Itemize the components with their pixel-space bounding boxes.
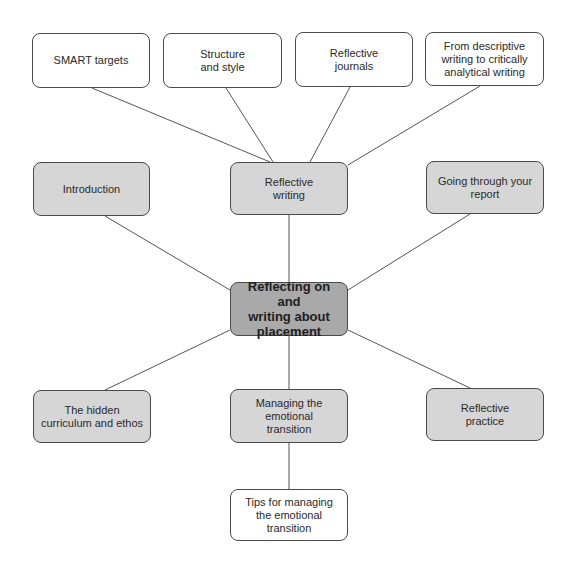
- link-structure-style: [226, 88, 273, 162]
- center-label: Reflecting on and writing about placemen…: [237, 279, 341, 339]
- node-going-through-report: Going through your report: [426, 161, 544, 214]
- node-label: SMART targets: [54, 54, 129, 67]
- link-smart-targets: [92, 88, 270, 162]
- node-label: Reflective journals: [330, 47, 378, 73]
- node-label: Going through your report: [438, 175, 532, 201]
- link-going-through-report: [348, 214, 470, 290]
- node-reflective-practice: Reflective practice: [426, 388, 544, 441]
- node-center: Reflecting on and writing about placemen…: [230, 282, 348, 336]
- node-tips-emotional-transition: Tips for managing the emotional transiti…: [230, 489, 348, 541]
- node-label: The hidden curriculum and ethos: [41, 404, 143, 430]
- node-label: Tips for managing the emotional transiti…: [245, 496, 333, 535]
- node-structure-style: Structure and style: [163, 33, 282, 88]
- node-label: Reflective practice: [461, 402, 509, 428]
- node-label: Reflective writing: [265, 176, 313, 202]
- node-descriptive-to-analytical: From descriptive writing to critically a…: [425, 32, 544, 86]
- node-reflective-writing: Reflective writing: [230, 162, 348, 215]
- link-hidden-curriculum: [105, 330, 230, 390]
- node-label: Structure and style: [200, 48, 245, 74]
- link-reflective-journals: [310, 87, 350, 162]
- node-label: From descriptive writing to critically a…: [441, 40, 527, 79]
- node-introduction: Introduction: [33, 162, 150, 216]
- mind-map-diagram: SMART targets Structure and style Reflec…: [0, 0, 577, 570]
- node-reflective-journals: Reflective journals: [295, 32, 413, 87]
- link-descriptive-analytical: [348, 86, 480, 165]
- node-hidden-curriculum: The hidden curriculum and ethos: [33, 390, 151, 443]
- node-label: Managing the emotional transition: [256, 397, 323, 436]
- link-introduction: [105, 216, 230, 290]
- node-label: Introduction: [63, 183, 120, 196]
- link-reflective-practice: [348, 330, 470, 388]
- node-smart-targets: SMART targets: [32, 33, 150, 88]
- node-managing-emotional-transition: Managing the emotional transition: [230, 389, 348, 443]
